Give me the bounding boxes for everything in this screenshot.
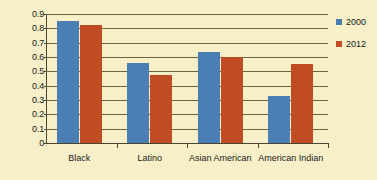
legend-label: 2012 xyxy=(346,39,366,49)
y-axis-tick-label: 0.5 xyxy=(0,66,44,76)
x-axis-category-label: Asian American xyxy=(189,153,252,163)
y-axis-tick-labels: 0.90.80.70.60.50.40.30.20.10 xyxy=(0,14,44,143)
x-axis-category-label: Latino xyxy=(137,153,162,163)
y-axis-tick-label: 0.8 xyxy=(0,23,44,33)
bar[interactable] xyxy=(198,52,220,143)
legend-item[interactable]: 2012 xyxy=(336,38,366,49)
x-axis-category-label: Black xyxy=(68,153,90,163)
bar-chart: 0.90.80.70.60.50.40.30.20.10 BlackLatino… xyxy=(0,0,377,180)
y-axis-tick-label: 0.4 xyxy=(0,81,44,91)
x-axis-tick-mark xyxy=(328,143,329,148)
legend-swatch-icon xyxy=(336,19,342,25)
bar-group xyxy=(57,14,102,143)
bar[interactable] xyxy=(268,96,290,143)
bar[interactable] xyxy=(221,57,243,143)
y-axis-tick-label: 0 xyxy=(0,138,44,148)
y-axis-tick-label: 0.1 xyxy=(0,124,44,134)
legend: 20002012 xyxy=(336,16,366,60)
bar[interactable] xyxy=(80,25,102,143)
x-axis-tick-mark xyxy=(117,143,118,148)
y-axis-tick-label: 0.6 xyxy=(0,52,44,62)
legend-label: 2000 xyxy=(346,17,366,27)
y-axis-tick-label: 0.9 xyxy=(0,9,44,19)
x-axis-tick-mark xyxy=(258,143,259,148)
bar[interactable] xyxy=(150,75,172,143)
bar-group xyxy=(198,14,243,143)
x-axis-category-label: American Indian xyxy=(258,153,323,163)
legend-item[interactable]: 2000 xyxy=(336,16,366,27)
bar-group xyxy=(268,14,313,143)
plot-area xyxy=(46,14,328,143)
bar[interactable] xyxy=(291,64,313,143)
bar[interactable] xyxy=(127,63,149,143)
bar-group xyxy=(127,14,172,143)
legend-swatch-icon xyxy=(336,41,342,47)
y-axis-tick-label: 0.2 xyxy=(0,109,44,119)
y-axis-tick-label: 0.3 xyxy=(0,95,44,105)
x-axis-tick-mark xyxy=(187,143,188,148)
y-axis-tick-label: 0.7 xyxy=(0,38,44,48)
bar[interactable] xyxy=(57,21,79,143)
